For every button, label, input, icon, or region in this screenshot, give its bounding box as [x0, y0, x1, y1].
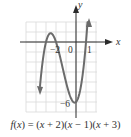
tick-label-0: 0	[68, 45, 73, 55]
tick-label-neg6: −6	[60, 99, 70, 109]
caption-part: + 3)	[101, 119, 121, 130]
y-axis-label: y	[77, 0, 83, 10]
function-caption: f(x) = (x + 2)(x − 1)(x + 3)	[0, 119, 131, 130]
caption-part: + 2)(	[44, 119, 67, 130]
caption-part: − 1)(	[73, 119, 96, 130]
tick-label-neg2: −2	[50, 45, 60, 55]
polynomial-graph: x y −2 0 1 −6	[0, 0, 131, 137]
x-axis-label: x	[115, 36, 121, 47]
tick-label-1: 1	[87, 45, 92, 55]
curve-left-arrow-icon	[37, 86, 43, 95]
caption-part: ) = (	[22, 119, 40, 130]
x-axis	[20, 39, 113, 45]
x-axis-arrow-icon	[105, 39, 113, 45]
